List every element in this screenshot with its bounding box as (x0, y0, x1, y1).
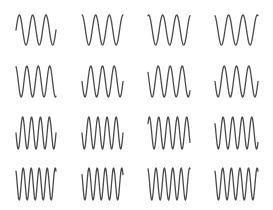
sine-wave-grid (0, 0, 273, 210)
